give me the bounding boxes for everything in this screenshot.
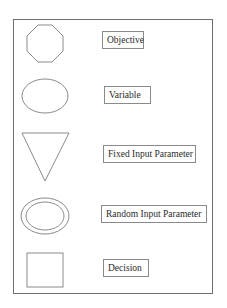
ellipse-icon	[22, 79, 68, 113]
label-objective: Objective	[102, 31, 144, 49]
double-ellipse-outer-icon	[21, 198, 69, 234]
label-variable: Variable	[104, 86, 151, 104]
double-ellipse-inner-icon	[26, 202, 64, 230]
inverted-triangle-icon	[22, 133, 69, 181]
label-fixed-input-parameter: Fixed Input Parameter	[103, 145, 196, 163]
label-random-input-parameter: Random Input Parameter	[101, 205, 207, 223]
octagon-icon	[27, 25, 63, 62]
square-icon	[27, 253, 63, 287]
label-decision: Decision	[103, 259, 149, 277]
